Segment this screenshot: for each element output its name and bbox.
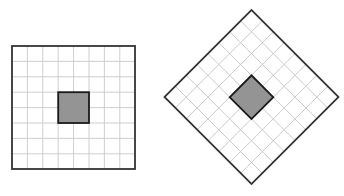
figure-canvas bbox=[0, 0, 344, 196]
panel-axis-aligned-grid-square bbox=[12, 46, 135, 169]
shaded-center-block bbox=[58, 92, 89, 123]
grid-square-group-0 bbox=[12, 46, 135, 169]
figure-root bbox=[0, 0, 344, 196]
